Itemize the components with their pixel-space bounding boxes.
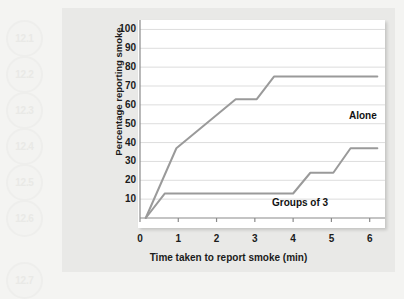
x-axis-tick-label: 6	[360, 234, 380, 244]
y-axis-tick-label: 70	[110, 81, 136, 91]
x-axis-tick-labels: 0123456	[62, 234, 395, 250]
x-axis-title: Time taken to report smoke (min)	[62, 252, 395, 263]
series-line-alone	[146, 77, 378, 218]
series-line-groups-of-3	[146, 148, 378, 218]
x-axis-tick-label: 5	[321, 234, 341, 244]
plot-area: Alone Groups of 3	[138, 20, 385, 228]
x-axis-tick-label: 1	[168, 234, 188, 244]
y-axis-tick-label: 60	[110, 100, 136, 110]
section-badge: 12.3	[6, 92, 43, 129]
section-badge: 12.7	[6, 262, 43, 299]
y-axis-tick-label: 30	[110, 156, 136, 166]
series-label-alone: Alone	[349, 110, 377, 121]
y-axis-tick-label: 20	[110, 175, 136, 185]
x-axis-tick-label: 0	[130, 234, 150, 244]
section-badge: 12.5	[6, 164, 43, 201]
y-axis-tick-label: 50	[110, 119, 136, 129]
section-badge-strip: 12.112.212.312.412.512.612.7	[0, 0, 62, 286]
section-badge: 12.2	[6, 56, 43, 93]
y-axis-tick-label: 100	[110, 24, 136, 34]
x-axis-tick-label: 4	[283, 234, 303, 244]
y-axis-tick-label: 40	[110, 138, 136, 148]
series-label-groups-of-3: Groups of 3	[272, 197, 328, 208]
figure-panel: Percentage reporting smoke 1020304050607…	[62, 8, 395, 272]
section-badge: 12.4	[6, 128, 43, 165]
y-axis-tick-labels: 102030405060708090100	[106, 8, 136, 272]
section-badge: 12.6	[6, 200, 43, 237]
chart-canvas	[138, 20, 385, 228]
section-badge: 12.1	[6, 20, 43, 57]
y-axis-tick-label: 10	[110, 194, 136, 204]
y-axis-tick-label: 90	[110, 43, 136, 53]
y-axis-tick-label: 80	[110, 62, 136, 72]
x-axis-tick-label: 2	[207, 234, 227, 244]
x-axis-tick-label: 3	[245, 234, 265, 244]
